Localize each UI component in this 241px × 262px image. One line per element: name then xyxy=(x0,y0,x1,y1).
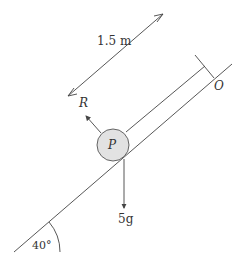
distance-label: 1.5 m xyxy=(97,35,131,47)
dimension-line xyxy=(68,14,163,96)
weight-label: 5g xyxy=(118,213,133,225)
point-o-label: O xyxy=(214,80,224,92)
angle-label: 40° xyxy=(32,240,52,251)
particle-label: P xyxy=(108,139,116,151)
rod-line xyxy=(126,66,205,132)
end-marker-line xyxy=(195,55,214,78)
reaction-arrow xyxy=(86,116,101,133)
reaction-label: R xyxy=(79,97,88,109)
